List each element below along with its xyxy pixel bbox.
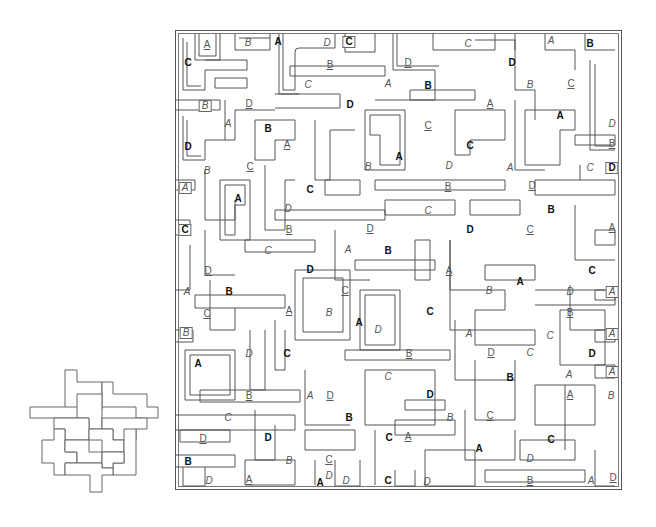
maze-label-a-underline: A: [446, 266, 453, 276]
maze-label-d-italic: D: [284, 204, 291, 214]
maze-label-a-underline: A: [284, 140, 291, 150]
maze-label-b-underline: B: [406, 349, 413, 359]
maze-label-a-boxed: A: [606, 366, 619, 378]
maze-label-b-bold: B: [506, 373, 513, 383]
maze-label-d-underline: D: [245, 99, 252, 109]
maze-label-a-italic: A: [184, 287, 191, 297]
maze-label-b-bold: B: [225, 287, 232, 297]
maze-label-a-bold: A: [234, 194, 241, 204]
maze-label-a-underline: A: [487, 99, 494, 109]
maze-label-c-bold: C: [283, 349, 290, 359]
maze-label-b-bold: B: [384, 246, 391, 256]
maze-label-b-bold: B: [184, 457, 191, 467]
maze-label-d-italic: D: [445, 161, 452, 171]
maze-label-b-bold: B: [586, 39, 593, 49]
maze-label-a-underline: A: [246, 475, 253, 485]
maze-label-a-italic: A: [466, 329, 473, 339]
maze-label-d-bold: D: [588, 349, 595, 359]
maze-label-d-underline: D: [326, 391, 333, 401]
maze-label-d-bold: D: [426, 390, 433, 400]
maze-label-c-italic: C: [224, 413, 231, 423]
maze-label-a-boxed: A: [606, 328, 619, 340]
maze-label-a-underline: A: [405, 432, 412, 442]
maze-label-b-underline: B: [286, 225, 293, 235]
maze-label-a-underline: A: [204, 40, 211, 50]
maze-label-c-italic: C: [304, 80, 311, 90]
maze-label-d-underline: D: [404, 58, 411, 68]
maze-label-c-underline: C: [567, 79, 574, 89]
key-shape-outline: [25, 365, 165, 495]
maze-label-b-bold: B: [264, 124, 271, 134]
maze-label-a-italic: A: [566, 370, 573, 380]
maze-label-d-bold: D: [508, 58, 515, 68]
maze-label-c-bold: C: [306, 185, 313, 195]
maze-label-d-italic: D: [526, 454, 533, 464]
maze-label-b-bold: B: [345, 413, 352, 423]
maze-label-c-bold: C: [547, 435, 554, 445]
maze-label-d-italic: D: [205, 476, 212, 486]
maze-label-a-italic: A: [588, 476, 595, 486]
maze-label-d-bold: D: [466, 225, 473, 235]
maze-label-c-underline: C: [325, 455, 332, 465]
maze-label-a-bold: A: [556, 111, 563, 121]
maze-label-d-underline: D: [528, 181, 535, 191]
maze-label-c-italic: C: [264, 246, 271, 256]
maze-walls: [175, 30, 622, 490]
maze-label-b-underline: B: [246, 391, 253, 401]
maze-label-b-bold: B: [424, 81, 431, 91]
maze-label-b-boxed: B: [199, 100, 212, 112]
maze-label-d-underline: D: [366, 224, 373, 234]
maze-grid: [175, 30, 622, 490]
maze-label-c-italic: C: [384, 372, 391, 382]
maze-label-c-boxbold: C: [342, 36, 355, 48]
maze-label-c-underline: C: [526, 225, 533, 235]
maze-label-a-italic: A: [507, 163, 514, 173]
maze-label-c-bold: C: [384, 476, 391, 486]
maze-label-b-underline: B: [445, 182, 452, 192]
maze-label-a-bold: A: [395, 152, 402, 162]
maze-label-b-underline: B: [567, 308, 574, 318]
maze-label-b-italic: B: [245, 38, 252, 48]
maze-label-a-italic: A: [548, 36, 555, 46]
maze-label-a-italic: A: [225, 119, 232, 129]
maze-label-a-underline: A: [567, 390, 574, 400]
maze-label-c-italic: C: [526, 348, 533, 358]
maze-label-d-underline: D: [487, 348, 494, 358]
maze-label-b-italic: B: [204, 166, 211, 176]
maze-label-a-italic: A: [345, 245, 352, 255]
maze-label-d-italic: D: [245, 349, 252, 359]
maze-label-d-italic: D: [325, 471, 332, 481]
maze-label-b-italic: B: [447, 413, 454, 423]
maze-label-c-underline: C: [341, 286, 348, 296]
maze-label-a-bold: A: [316, 478, 323, 488]
maze-label-a-bold: A: [516, 277, 523, 287]
maze-label-a-italic: A: [307, 391, 314, 401]
maze-label-a-bold: A: [475, 444, 482, 454]
maze-label-b-italic: B: [486, 286, 493, 296]
maze-label-d-italic: D: [566, 287, 573, 297]
maze-label-c-italic: C: [464, 39, 471, 49]
maze-label-b-italic: B: [527, 80, 534, 90]
maze-label-d-underline: D: [199, 434, 206, 444]
maze-label-c-italic: C: [586, 163, 593, 173]
maze-label-d-bold: D: [184, 142, 191, 152]
maze-label-a-underline: A: [286, 306, 293, 316]
maze-label-d-italic: D: [423, 477, 430, 487]
maze-label-d-italic: D: [374, 325, 381, 335]
maze-label-d-underline: D: [609, 473, 616, 483]
maze-label-a-italic: A: [385, 79, 392, 89]
maze-label-a-underline: A: [609, 223, 616, 233]
maze-label-c-bold: C: [385, 433, 392, 443]
maze-label-c-underline: C: [424, 121, 431, 131]
maze-label-a-bold: A: [355, 318, 362, 328]
maze-label-c-bold: C: [184, 58, 191, 68]
maze-label-b-italic: B: [326, 308, 333, 318]
maze-label-c-bold: C: [426, 307, 433, 317]
maze-label-c-italic: C: [424, 206, 431, 216]
maze-label-c-bold: C: [588, 266, 595, 276]
maze-label-c-underline: C: [246, 162, 253, 172]
maze-label-c-boxbold: C: [178, 224, 191, 236]
maze-label-c-italic: C: [546, 331, 553, 341]
maze-label-a-bold: A: [274, 37, 281, 47]
maze-label-c-underline: C: [486, 411, 493, 421]
